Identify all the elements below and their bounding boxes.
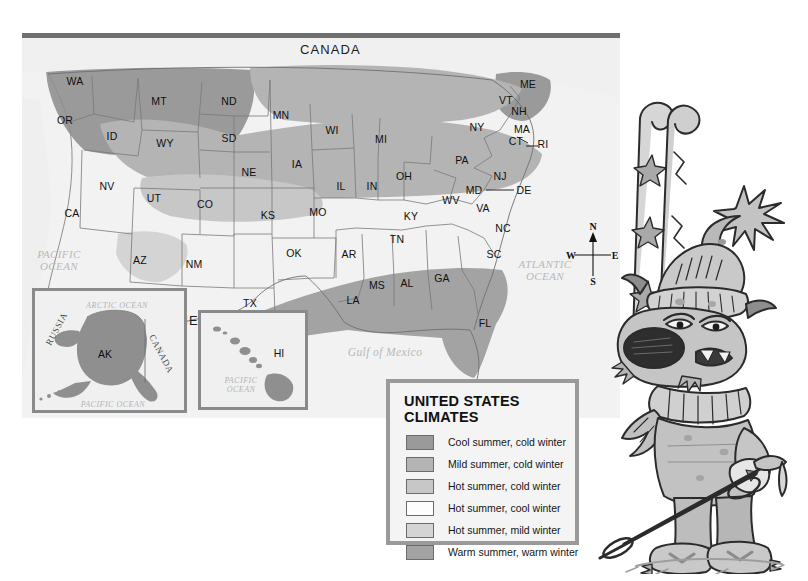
- skiing-dog-graphic: [596, 96, 808, 574]
- legend-swatch-1: [406, 457, 434, 472]
- legend-item-mild-summer-cold-winter: Mild summer, cold winter: [402, 454, 565, 474]
- legend-item-hot-summer-cold-winter: Hot summer, cold winter: [402, 476, 565, 496]
- legend-label-2: Hot summer, cold winter: [448, 480, 561, 492]
- legend-title: UNITED STATES CLIMATES: [404, 393, 565, 425]
- alaska-inset: AK RUSSIA ARCTIC OCEAN CANADA PACIFIC OC…: [32, 288, 187, 413]
- page-root: CANADA MEXICO PACIFIC OCEAN ATLANTIC OCE…: [0, 0, 808, 581]
- legend-swatch-4: [406, 523, 434, 538]
- legend-label-4: Hot summer, mild winter: [448, 524, 561, 536]
- legend-swatch-0: [406, 435, 434, 450]
- legend-swatch-5: [406, 545, 434, 560]
- hawaii-inset: HI PACIFIC OCEAN: [198, 310, 308, 410]
- legend-swatch-2: [406, 479, 434, 494]
- compass-south-label: S: [590, 276, 596, 287]
- legend-item-hot-summer-mild-winter: Hot summer, mild winter: [402, 520, 565, 540]
- alaska-inset-graphic: [35, 291, 184, 410]
- legend-label-5: Warm summer, warm winter: [448, 546, 578, 558]
- legend-item-warm-summer-warm-winter: Warm summer, warm winter: [402, 542, 565, 562]
- compass-west-label: W: [566, 250, 576, 261]
- legend-label-0: Cool summer, cold winter: [448, 436, 566, 448]
- legend-label-1: Mild summer, cold winter: [448, 458, 564, 470]
- map-legend: UNITED STATES CLIMATES Cool summer, cold…: [386, 379, 579, 545]
- us-climate-map: CANADA MEXICO PACIFIC OCEAN ATLANTIC OCE…: [22, 33, 620, 418]
- legend-swatch-3: [406, 501, 434, 516]
- legend-label-3: Hot summer, cool winter: [448, 502, 561, 514]
- skiing-dog-illustration: [596, 96, 808, 574]
- hawaii-inset-graphic: [201, 313, 305, 407]
- legend-item-cool-summer-cold-winter: Cool summer, cold winter: [402, 432, 565, 452]
- legend-item-hot-summer-cool-winter: Hot summer, cool winter: [402, 498, 565, 518]
